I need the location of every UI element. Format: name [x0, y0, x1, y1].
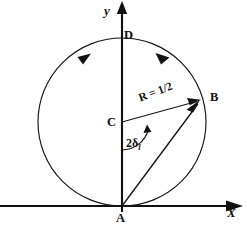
y-axis-arrowhead-icon [117, 1, 127, 14]
phase-angle-main: 2δ [126, 136, 138, 150]
x-axis-label: X [227, 206, 236, 219]
point-label-d: D [124, 29, 133, 42]
phase-angle-subscript: l [138, 142, 140, 152]
phase-angle-arc-arrowhead-icon [144, 125, 152, 134]
y-axis-label: y [104, 4, 110, 17]
amplitude-vector-AB [122, 105, 198, 207]
phase-angle-label: 2δl [126, 137, 141, 152]
argand-diagram-figure: y X A B C D R = 1/2 2δl [0, 0, 247, 231]
point-label-c: C [107, 116, 116, 129]
circle-direction-arrowhead-right-icon [156, 53, 170, 65]
circle-direction-arrowhead-left-icon [78, 54, 92, 65]
radius-vector-CB [122, 102, 197, 123]
point-label-a: A [116, 212, 125, 225]
point-label-b: B [210, 91, 218, 104]
